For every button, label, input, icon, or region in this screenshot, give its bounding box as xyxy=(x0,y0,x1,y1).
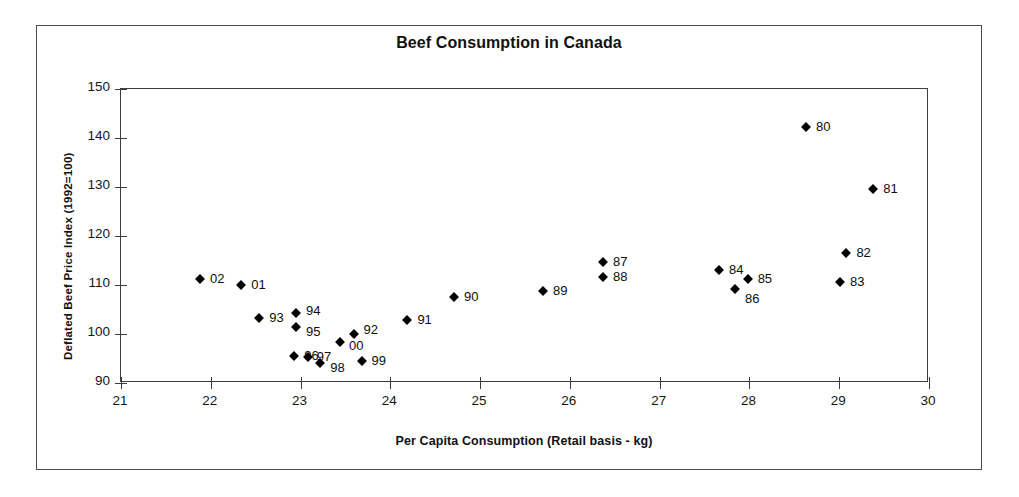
data-point-label: 90 xyxy=(464,289,478,302)
data-point-label: 89 xyxy=(553,283,567,296)
data-point-marker xyxy=(254,313,264,323)
data-point-marker xyxy=(449,292,459,302)
x-tick-label: 30 xyxy=(903,393,953,408)
y-tick-label: 150 xyxy=(72,79,110,94)
y-tick-label: 120 xyxy=(72,226,110,241)
data-point-label: 93 xyxy=(269,311,283,324)
x-tick-mark xyxy=(570,377,571,389)
y-tick-label: 90 xyxy=(72,373,110,388)
data-point-marker xyxy=(714,265,724,275)
x-tick-label: 25 xyxy=(454,393,504,408)
y-tick-mark xyxy=(115,285,127,286)
x-tick-label: 21 xyxy=(95,393,145,408)
x-tick-mark xyxy=(121,377,122,389)
data-point-marker xyxy=(538,286,548,296)
y-tick-mark xyxy=(115,334,127,335)
x-tick-mark xyxy=(390,377,391,389)
data-point-marker xyxy=(730,284,740,294)
y-tick-label: 100 xyxy=(72,324,110,339)
x-tick-mark xyxy=(211,377,212,389)
data-point-label: 99 xyxy=(372,353,386,366)
data-point-label: 81 xyxy=(883,182,897,195)
x-tick-label: 22 xyxy=(185,393,235,408)
data-point-label: 92 xyxy=(364,323,378,336)
data-point-label: 83 xyxy=(850,275,864,288)
y-tick-label: 140 xyxy=(72,128,110,143)
data-point-label: 82 xyxy=(856,246,870,259)
data-point-marker xyxy=(598,258,608,268)
x-tick-label: 28 xyxy=(723,393,773,408)
x-tick-mark xyxy=(839,377,840,389)
y-tick-mark xyxy=(115,89,127,90)
x-tick-mark xyxy=(749,377,750,389)
x-tick-label: 29 xyxy=(813,393,863,408)
data-point-marker xyxy=(289,351,299,361)
x-tick-label: 23 xyxy=(275,393,325,408)
x-tick-mark xyxy=(480,377,481,389)
y-tick-label: 110 xyxy=(72,275,110,290)
data-point-marker xyxy=(195,274,205,284)
data-point-label: 85 xyxy=(758,271,772,284)
x-tick-label: 24 xyxy=(364,393,414,408)
data-point-label: 00 xyxy=(349,339,363,352)
data-point-label: 88 xyxy=(613,270,627,283)
data-point-marker xyxy=(598,272,608,282)
data-point-marker xyxy=(868,184,878,194)
data-point-marker xyxy=(335,337,345,347)
x-tick-label: 27 xyxy=(634,393,684,408)
y-tick-mark xyxy=(115,236,127,237)
chart-title: Beef Consumption in Canada xyxy=(36,34,982,52)
data-point-marker xyxy=(841,248,851,258)
data-point-marker xyxy=(835,277,845,287)
chart-figure: Beef Consumption in Canada Deflated Beef… xyxy=(0,0,1019,497)
y-tick-label: 130 xyxy=(72,177,110,192)
data-point-marker xyxy=(291,322,301,332)
data-point-marker xyxy=(291,308,301,318)
x-tick-mark xyxy=(660,377,661,389)
data-point-label: 80 xyxy=(816,119,830,132)
data-point-marker xyxy=(402,315,412,325)
data-point-label: 98 xyxy=(330,360,344,373)
data-point-marker xyxy=(801,122,811,132)
data-point-label: 84 xyxy=(729,263,743,276)
y-tick-mark xyxy=(115,138,127,139)
x-tick-label: 26 xyxy=(544,393,594,408)
data-point-label: 86 xyxy=(745,292,759,305)
data-point-label: 91 xyxy=(417,312,431,325)
data-point-label: 95 xyxy=(306,324,320,337)
data-point-label: 94 xyxy=(306,304,320,317)
data-point-marker xyxy=(743,274,753,284)
data-point-label: 01 xyxy=(251,277,265,290)
data-point-label: 87 xyxy=(613,255,627,268)
plot-area: 8081828384858687888990919293949596979899… xyxy=(120,88,928,382)
data-point-marker xyxy=(357,356,367,366)
data-point-label: 02 xyxy=(210,271,224,284)
x-tick-mark xyxy=(929,377,930,389)
x-axis-title: Per Capita Consumption (Retail basis - k… xyxy=(120,434,928,448)
x-tick-mark xyxy=(301,377,302,389)
y-tick-mark xyxy=(115,187,127,188)
data-point-marker xyxy=(236,280,246,290)
